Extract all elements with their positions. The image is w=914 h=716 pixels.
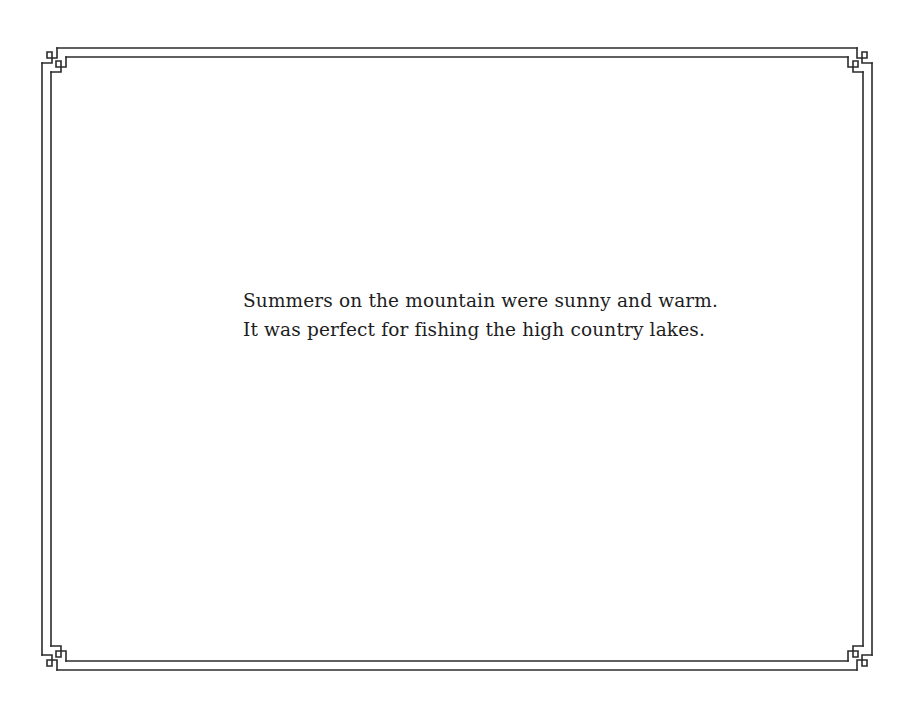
story-line-2: It was perfect for fishing the high coun… <box>243 315 723 344</box>
story-line-1: Summers on the mountain were sunny and w… <box>243 286 723 315</box>
story-text: Summers on the mountain were sunny and w… <box>243 286 723 344</box>
decorative-double-border <box>0 0 914 716</box>
outer-border-line <box>42 48 872 670</box>
book-page: Summers on the mountain were sunny and w… <box>0 0 914 716</box>
inner-border-line <box>51 57 863 661</box>
